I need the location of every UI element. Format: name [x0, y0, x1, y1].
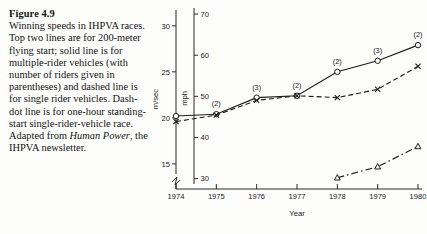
x-tick-label: 1977 — [289, 192, 306, 201]
series-line-3 — [337, 146, 418, 177]
data-point-marker — [335, 69, 340, 74]
chart-svg: 15202530m/sec3040506070mph19741975197619… — [150, 2, 427, 234]
y-axis-title: m/sec — [151, 89, 160, 109]
caption-body: Winning speeds in IHPVA races. Top two l… — [9, 20, 149, 154]
x-tick-label: 1979 — [369, 192, 386, 201]
caption-text: Winning speeds in IHPVA races. Top two l… — [9, 20, 146, 141]
caption-source: Human Power — [70, 130, 130, 141]
y-tick-label: 15 — [162, 160, 170, 169]
data-point-marker — [173, 113, 178, 118]
y-tick-label: 30 — [162, 22, 170, 31]
data-point-label: (2) — [292, 81, 301, 90]
data-point-marker — [254, 95, 259, 100]
data-point-label: (2) — [333, 57, 342, 66]
axis-break-symbol — [172, 177, 180, 185]
data-point-label: (2) — [212, 99, 221, 108]
data-point-label: (2) — [413, 30, 422, 39]
y-tick-label: 20 — [162, 114, 170, 123]
y2-axis-title: mph — [180, 91, 189, 106]
data-point-label: (3) — [373, 46, 382, 55]
x-tick-label: 1975 — [208, 192, 225, 201]
line-chart: 15202530m/sec3040506070mph19741975197619… — [150, 2, 427, 234]
figure-container: Figure 4.9Winning speeds in IHPVA races.… — [0, 0, 427, 234]
x-tick-label: 1976 — [248, 192, 265, 201]
figure-number: Figure 4.9 — [9, 8, 149, 20]
y2-tick-label: 70 — [201, 10, 209, 19]
data-point-marker — [415, 42, 420, 47]
x-tick-label: 1978 — [329, 192, 346, 201]
x-axis-title: Year — [289, 209, 305, 218]
y2-tick-label: 40 — [201, 133, 209, 142]
y-tick-label: 25 — [162, 68, 170, 77]
y2-tick-label: 30 — [201, 174, 209, 183]
data-point-marker — [415, 143, 421, 148]
figure-caption: Figure 4.9Winning speeds in IHPVA races.… — [9, 8, 149, 154]
data-point-marker — [375, 58, 380, 63]
y2-tick-label: 60 — [201, 51, 209, 60]
y2-tick-label: 50 — [201, 92, 209, 101]
x-tick-label: 1980 — [410, 192, 427, 201]
data-point-marker — [415, 64, 420, 69]
x-tick-label: 1974 — [168, 192, 185, 201]
data-point-label: (3) — [252, 83, 261, 92]
